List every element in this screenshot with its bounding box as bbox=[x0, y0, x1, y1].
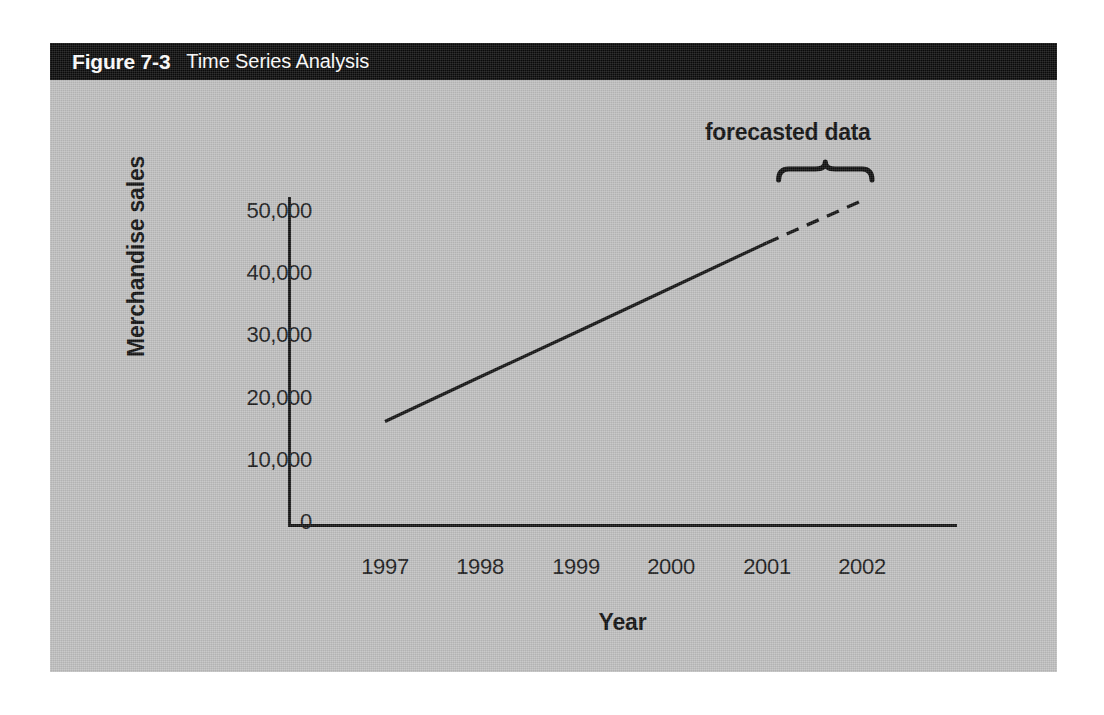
forecast-annotation-label: forecasted data bbox=[705, 119, 871, 146]
chart-plot-area: 50,000 40,000 30,000 20,000 10,000 0 199… bbox=[50, 43, 1057, 672]
figure-panel: Figure 7-3 Time Series Analysis 50,000 4… bbox=[50, 43, 1057, 672]
annotation-layer bbox=[50, 43, 1057, 672]
curly-brace-icon bbox=[779, 162, 872, 180]
